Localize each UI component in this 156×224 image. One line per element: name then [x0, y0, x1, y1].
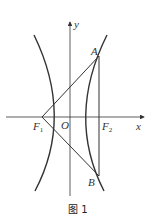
label-x: x	[135, 120, 141, 132]
label-o: O	[61, 119, 69, 131]
figure-caption: 图 1	[68, 204, 88, 215]
label-f1: F1	[32, 120, 44, 134]
label-b: B	[88, 176, 95, 188]
hyperbola-diagram: y x A B O F1 F2 图 1	[0, 0, 156, 224]
label-f2: F2	[101, 120, 113, 134]
left-branch	[34, 35, 54, 191]
segment-f1a	[42, 56, 99, 117]
label-a: A	[90, 45, 98, 57]
label-y: y	[73, 18, 79, 30]
